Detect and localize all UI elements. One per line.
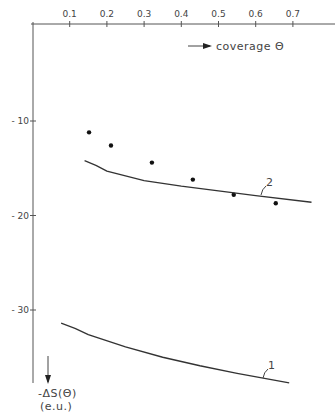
x-tick-label: 0.2 [100,9,114,19]
y-axis-label: -ΔS(Θ) (e.u.) [38,356,77,413]
data-point [109,143,113,147]
data-point [274,201,278,205]
data-point [191,177,195,181]
x-axis-label: coverage Θ [188,40,284,53]
chart: 0.10.20.30.40.50.60.7 - 10- 20- 30 cover… [0,0,335,417]
x-tick-label: 0.3 [137,9,151,19]
data-point [150,160,154,164]
y-ticks: - 10- 20- 30 [11,116,36,315]
arrow-down-icon [45,375,51,384]
y-tick-label: - 30 [11,305,29,315]
arrow-right-icon [203,43,212,49]
x-tick-label: 0.4 [174,9,189,19]
x-tick-label: 0.6 [249,9,264,19]
curve-label: 2 [266,176,274,189]
x-tick-label: 0.7 [286,9,300,19]
y-tick-label: - 20 [11,211,29,221]
x-tick-label: 0.5 [211,9,225,19]
y-axis-title: -ΔS(Θ) [38,387,77,400]
x-tick-label: 0.1 [63,9,77,19]
x-axis-title: coverage Θ [216,40,284,53]
y-axis-unit: (e.u.) [40,400,72,413]
plot-area: 21 [61,130,311,383]
curve-1 [61,323,289,383]
data-point [87,130,91,134]
curve-label: 1 [268,359,276,372]
y-tick-label: - 10 [11,116,29,126]
curve-2 [85,161,312,203]
